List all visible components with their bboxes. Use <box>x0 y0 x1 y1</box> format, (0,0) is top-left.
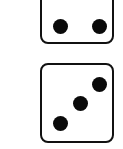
die-face-two[interactable] <box>40 0 114 44</box>
die-face-three[interactable] <box>40 63 114 143</box>
pip <box>73 96 88 111</box>
pip <box>92 77 107 92</box>
pip <box>53 19 68 34</box>
pip <box>92 19 107 34</box>
pip <box>53 116 68 131</box>
